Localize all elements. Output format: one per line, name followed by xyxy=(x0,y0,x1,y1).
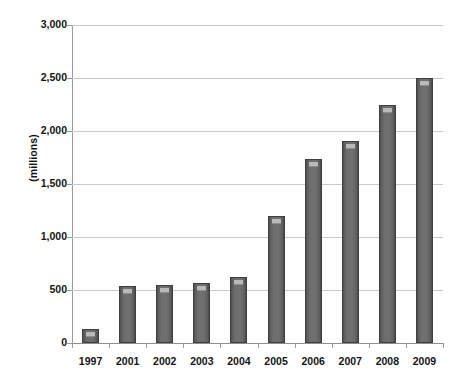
bar-top-highlight xyxy=(420,81,429,86)
x-tick-mark xyxy=(72,343,73,348)
bar-2001 xyxy=(119,286,136,343)
bar-top-highlight xyxy=(383,108,392,113)
y-tick-mark xyxy=(67,184,72,185)
bar-2009 xyxy=(416,78,433,343)
gridline xyxy=(72,25,443,26)
y-tick-mark xyxy=(67,290,72,291)
bar-chart: (millions) 05001,0001,5002,0002,5003,000… xyxy=(0,0,451,390)
y-tick-mark xyxy=(67,25,72,26)
bar-2005 xyxy=(268,216,285,343)
x-tick-mark xyxy=(332,343,333,348)
x-tick-mark xyxy=(443,343,444,348)
x-tick-mark xyxy=(258,343,259,348)
x-tick-mark xyxy=(295,343,296,348)
y-axis-tick-label: 2,500 xyxy=(7,71,67,83)
clipped-title-fragment xyxy=(375,0,421,5)
bar-2003 xyxy=(193,283,210,343)
plot-area xyxy=(72,25,443,343)
bar-top-highlight xyxy=(160,288,169,293)
bar-1997 xyxy=(82,329,99,343)
bar-top-highlight xyxy=(197,286,206,291)
y-tick-mark xyxy=(67,237,72,238)
x-tick-mark xyxy=(369,343,370,348)
y-axis-tick-label: 3,000 xyxy=(7,18,67,30)
x-tick-mark xyxy=(146,343,147,348)
bar-2007 xyxy=(342,141,359,343)
bar-2004 xyxy=(230,277,247,343)
x-tick-mark xyxy=(183,343,184,348)
bar-top-highlight xyxy=(234,280,243,285)
y-axis-tick-label: 0 xyxy=(7,336,67,348)
y-axis-tick-label: 2,000 xyxy=(7,124,67,136)
x-tick-mark xyxy=(109,343,110,348)
bar-top-highlight xyxy=(346,144,355,149)
y-tick-mark xyxy=(67,78,72,79)
bar-top-highlight xyxy=(309,162,318,167)
bar-top-highlight xyxy=(123,289,132,294)
y-tick-mark xyxy=(67,131,72,132)
gridline xyxy=(72,78,443,79)
x-tick-mark xyxy=(220,343,221,348)
bar-top-highlight xyxy=(86,332,95,337)
x-tick-mark xyxy=(406,343,407,348)
y-axis-tick-label: 1,000 xyxy=(7,230,67,242)
bar-2008 xyxy=(379,105,396,344)
x-axis-tick-label-2009: 2009 xyxy=(402,355,446,367)
y-axis-tick-label: 1,500 xyxy=(7,177,67,189)
bar-2006 xyxy=(305,159,322,343)
bar-top-highlight xyxy=(272,219,281,224)
y-axis-tick-label: 500 xyxy=(7,283,67,295)
bar-2002 xyxy=(156,285,173,343)
